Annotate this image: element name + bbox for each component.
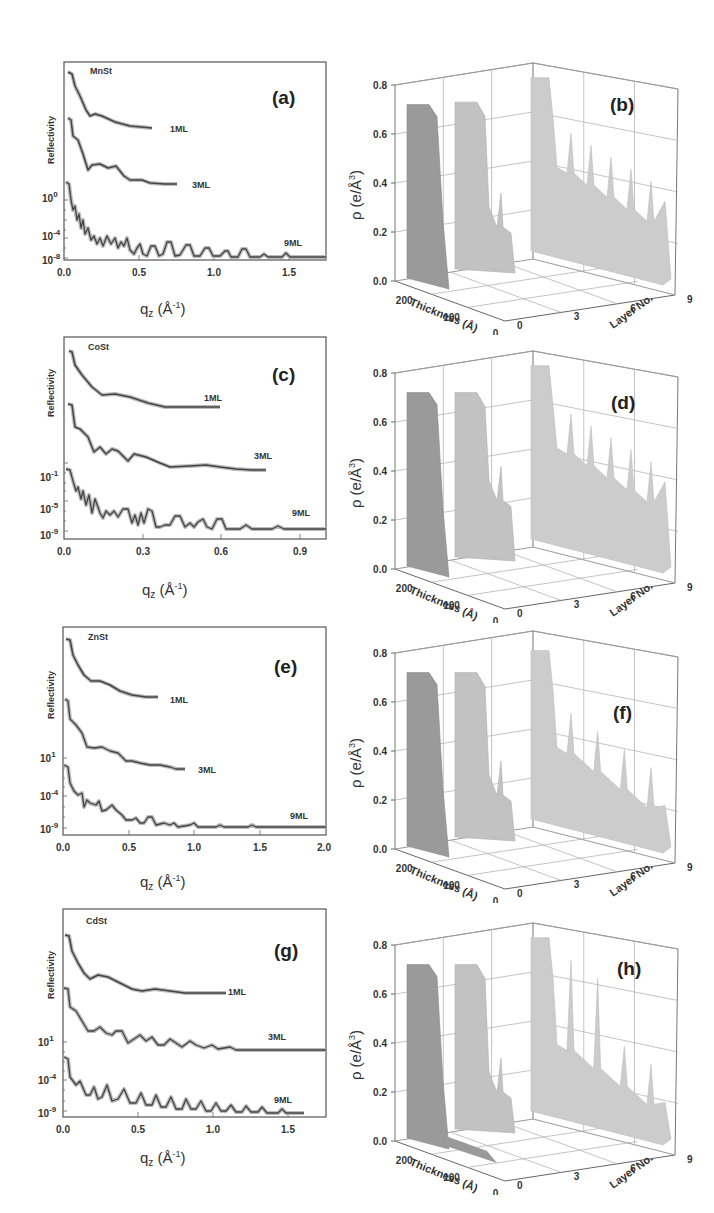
y-tick: 3 xyxy=(574,879,580,890)
series-label-9ml: 9ML xyxy=(284,238,303,248)
panel-label: (e) xyxy=(274,656,297,677)
x-tick: 0.0 xyxy=(56,842,70,853)
y-tick: 10-4 xyxy=(40,788,59,802)
z-tick: 0.0 xyxy=(373,564,387,575)
z-tick: 0.6 xyxy=(373,129,387,140)
series-label-3ml: 3ML xyxy=(268,1032,287,1042)
y-tick: 10-4 xyxy=(42,228,61,242)
y-tick: 10-5 xyxy=(40,501,59,515)
density-axis-label: ρ (e/Å3) xyxy=(347,1030,364,1080)
z-tick: 0.0 xyxy=(373,276,387,287)
density-slab-3ml xyxy=(455,102,515,273)
z-tick: 0.4 xyxy=(373,466,387,477)
z-tick: 0.2 xyxy=(373,227,387,238)
panel-label: (d) xyxy=(611,392,635,413)
y-tick: 0 xyxy=(517,888,523,899)
layer-axis-label: Layer No. xyxy=(607,859,655,898)
density-slab-3ml xyxy=(455,965,515,1133)
panel-e-reflectivity-znst: ZnSt (e) Reflectivity 101 10-4 10-9 0.0 … xyxy=(20,615,350,890)
y-tick: 0 xyxy=(517,1180,523,1191)
density-slab-3ml xyxy=(455,673,515,841)
x-tick: 2.0 xyxy=(317,842,331,853)
density-axis-label: ρ (e/Å3) xyxy=(347,170,364,220)
series-label-1ml: 1ML xyxy=(170,695,189,705)
curve-1ml xyxy=(65,935,226,993)
y-tick: 100 xyxy=(42,190,58,204)
thickness-axis-label: Thickness (Å) xyxy=(408,864,480,902)
density-slab-1ml xyxy=(407,105,449,289)
y-tick: 10-8 xyxy=(42,252,61,266)
density-slab-1ml xyxy=(407,393,449,577)
y-axis-label: Reflectivity xyxy=(46,116,56,164)
x-axis-label: qz (Å-1) xyxy=(142,581,188,600)
x-tick: 0.6 xyxy=(214,546,228,557)
y-axis-label: Reflectivity xyxy=(46,671,56,719)
z-tick: 0.8 xyxy=(373,368,387,379)
y-tick: 10-4 xyxy=(38,1072,57,1086)
panel-d-density-3d: 0.00.20.40.60.820010000369Thickness (Å)L… xyxy=(345,333,705,623)
z-tick: 0.6 xyxy=(373,989,387,1000)
density-axis-label: ρ (e/Å3) xyxy=(347,738,364,788)
series-label-1ml: 1ML xyxy=(204,393,223,403)
x-tick: 0.0 xyxy=(56,1124,70,1135)
x-tick: 1.5 xyxy=(281,1124,295,1135)
density-slab-9ml xyxy=(531,938,671,1145)
chart-b: 0.00.20.40.60.820010000369Thickness (Å)L… xyxy=(345,45,705,335)
y-tick: 10-9 xyxy=(40,821,59,835)
layer-axis-label: Layer No. xyxy=(607,1151,655,1190)
x-axis-label: qz (Å-1) xyxy=(140,873,186,890)
series-label-9ml: 9ML xyxy=(290,811,309,821)
y-tick: 9 xyxy=(687,294,693,305)
z-tick: 0.4 xyxy=(373,746,387,757)
y-tick: 9 xyxy=(687,582,693,593)
y-tick: 10-1 xyxy=(40,469,59,483)
series-label-3ml: 3ML xyxy=(254,451,273,461)
x-tick: 0.5 xyxy=(132,267,146,278)
x-tick: 1.0 xyxy=(207,267,221,278)
series-label-1ml: 1ML xyxy=(228,987,247,997)
series-label-3ml: 3ML xyxy=(198,765,217,775)
x-tick: 0.0 xyxy=(57,546,71,557)
panel-b-density-3d: 0.00.20.40.60.820010000369Thickness (Å)L… xyxy=(345,45,705,335)
curve-1ml xyxy=(69,351,220,407)
panel-c-reflectivity-cost: CoSt (c) Reflectivity 10-1 10-5 10-9 0.0… xyxy=(20,333,350,603)
thickness-axis-label: Thickness (Å) xyxy=(408,1156,480,1194)
density-slab-1ml xyxy=(407,965,449,1149)
y-tick: 10-9 xyxy=(40,527,59,541)
density-slab-1ml xyxy=(407,673,449,857)
y-tick: 9 xyxy=(687,862,693,873)
chart-g: CdSt (g) Reflectivity 101 10-4 10-9 0.0 … xyxy=(20,905,350,1175)
panel-g-reflectivity-cdst: CdSt (g) Reflectivity 101 10-4 10-9 0.0 … xyxy=(20,905,350,1175)
x-tick: 1.5 xyxy=(253,842,267,853)
x-axis-label: qz (Å-1) xyxy=(140,1149,186,1168)
panel-label: (a) xyxy=(272,87,295,108)
z-tick: 0.8 xyxy=(373,80,387,91)
x-tick: 0.9 xyxy=(293,546,307,557)
curve-9ml xyxy=(66,469,326,529)
x-tick: 0.0 xyxy=(57,267,71,278)
x-tick: 0.5 xyxy=(131,1124,145,1135)
density-slab-9ml xyxy=(531,366,671,573)
material-label: MnSt xyxy=(90,66,112,76)
layer-axis-label: Layer No. xyxy=(607,291,655,330)
y-tick: 3 xyxy=(574,1171,580,1182)
z-tick: 0.6 xyxy=(373,697,387,708)
z-tick: 0.0 xyxy=(373,1136,387,1147)
material-label: ZnSt xyxy=(88,632,108,642)
density-slab-9ml xyxy=(531,651,671,853)
chart-a: MnSt (a) Reflectivity 100 10-4 10-8 0.0 … xyxy=(20,50,350,320)
z-tick: 0.2 xyxy=(373,1087,387,1098)
density-slab-3ml xyxy=(455,393,515,561)
y-tick: 3 xyxy=(574,311,580,322)
chart-e: ZnSt (e) Reflectivity 101 10-4 10-9 0.0 … xyxy=(20,615,350,890)
thickness-axis-label: Thickness (Å) xyxy=(408,296,480,334)
series-label-9ml: 9ML xyxy=(292,508,311,518)
y-axis-label: Reflectivity xyxy=(46,369,56,417)
panel-label: (b) xyxy=(610,94,634,115)
series-label-9ml: 9ML xyxy=(274,1095,293,1105)
material-label: CdSt xyxy=(86,916,107,926)
panel-label: (f) xyxy=(613,702,632,723)
panel-h-density-3d: 0.00.20.40.60.820010000369Thickness (Å)L… xyxy=(345,905,705,1195)
x-axis-label: qz (Å-1) xyxy=(140,300,186,319)
x-tick: 0 xyxy=(493,1188,499,1195)
